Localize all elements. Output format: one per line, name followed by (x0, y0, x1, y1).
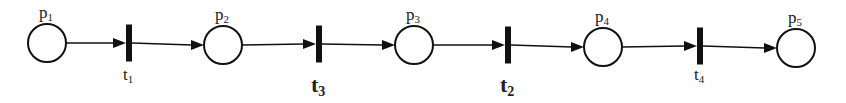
place-p3 (395, 26, 433, 64)
place-label-p1: p1 (39, 3, 53, 23)
place-label-p4: p4 (595, 7, 610, 27)
transition-t2 (505, 27, 511, 64)
arc-p4-t4 (622, 41, 697, 51)
place-label-p5: p5 (788, 8, 803, 28)
arc-t3-p3 (322, 40, 395, 50)
arrowhead-icon (382, 40, 395, 50)
arc-p2-t3 (242, 39, 316, 49)
transition-label-t1: t1 (123, 65, 133, 85)
transition-t4 (697, 28, 703, 65)
arrowhead-icon (191, 40, 204, 50)
place-p5 (777, 29, 815, 67)
transition-label-t2: t2 (500, 72, 514, 99)
place-p2 (204, 26, 242, 64)
places-layer (28, 24, 815, 67)
arc-t4-p5 (703, 43, 777, 53)
place-p1 (28, 24, 66, 62)
arc-t1-p2 (132, 40, 204, 50)
arrowhead-icon (492, 40, 505, 50)
arrowhead-icon (684, 41, 697, 51)
petri-net-diagram: p1p2p3p4p5t1t3t2t4 (0, 0, 846, 103)
transition-label-t4: t4 (694, 65, 705, 85)
place-label-p2: p2 (215, 5, 229, 25)
arc-p1-t1 (66, 38, 126, 48)
arrowhead-icon (113, 38, 126, 48)
arrowhead-icon (764, 43, 777, 53)
arrowhead-icon (303, 39, 316, 49)
arc-p3-t2 (433, 40, 505, 50)
transition-t1 (126, 25, 132, 62)
arrowhead-icon (571, 42, 584, 52)
transition-t3 (316, 26, 322, 63)
transition-label-t3: t3 (311, 72, 325, 99)
arc-t2-p4 (511, 42, 584, 52)
place-p4 (584, 28, 622, 66)
place-label-p3: p3 (406, 5, 421, 25)
